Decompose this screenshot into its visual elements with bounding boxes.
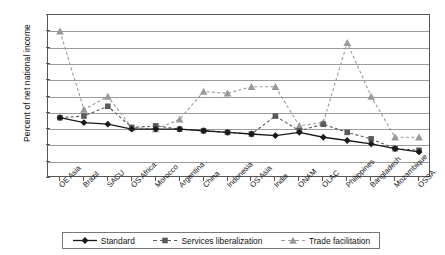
y-tick-mark [46,112,50,113]
triangle-marker [80,106,88,113]
chart-figure: Percent of net national income 876543210… [0,0,445,255]
legend-label: Services liberalization [181,236,262,246]
square-marker [81,113,87,119]
y-tick-mark [46,30,50,31]
y-tick-mark [46,63,50,64]
diamond-marker [344,137,351,144]
triangle-marker [56,28,64,35]
diamond-marker [272,132,279,139]
diamond-marker [81,237,88,244]
diamond-marker [320,134,327,141]
y-tick-mark [46,14,50,15]
diamond-marker [81,119,88,126]
legend-label: Standard [101,236,135,246]
triangle-marker [104,93,112,100]
series-layer [48,15,431,178]
triangle-marker [343,39,351,46]
plot-area [47,14,430,177]
y-tick-mark [46,96,50,97]
series-line [60,106,419,150]
series-line [60,31,419,137]
square-marker [105,103,111,109]
legend-marker-square [152,235,178,246]
legend-marker-diamond [72,235,98,246]
square-marker [320,121,326,127]
y-tick-mark [46,177,50,178]
y-axis-title: Percent of net national income [22,3,32,163]
square-marker [344,130,350,136]
legend-item[interactable]: Standard [72,235,135,246]
legend-item[interactable]: Trade facilitation [280,235,370,246]
series-services-liberalization [57,103,422,153]
legend-marker-triangle [280,235,306,246]
square-marker [163,238,169,244]
triangle-marker [248,83,256,90]
y-tick-mark [46,47,50,48]
chart-legend: StandardServices liberalizationTrade fac… [62,232,380,249]
legend-item[interactable]: Services liberalization [152,235,262,246]
square-marker [273,113,279,119]
series-line [60,118,419,152]
series-standard [57,114,423,155]
y-tick-mark [46,128,50,129]
diamond-marker [104,121,111,128]
y-tick-mark [46,144,50,145]
y-tick-mark [46,79,50,80]
series-trade-facilitation [56,28,423,141]
triangle-marker [415,133,423,140]
legend-label: Trade facilitation [309,236,370,246]
y-tick-mark [46,161,50,162]
triangle-marker [200,88,208,95]
triangle-marker [367,93,375,100]
